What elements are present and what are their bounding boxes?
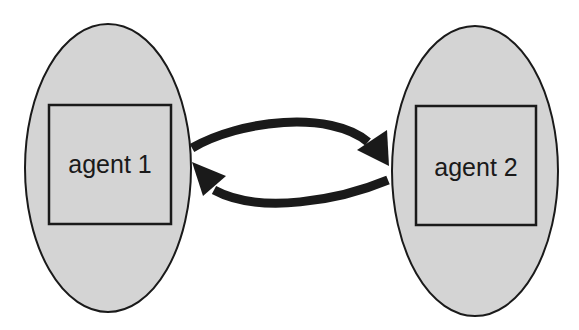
agent-2-node: agent 2 bbox=[392, 26, 558, 316]
arrow-shaft bbox=[214, 180, 388, 203]
agent-1-label: agent 1 bbox=[68, 150, 151, 178]
arrow-agent1-to-agent2 bbox=[192, 122, 389, 166]
arrow-shaft bbox=[192, 122, 368, 148]
arrow-agent2-to-agent1 bbox=[192, 162, 388, 203]
agent-1-node: agent 1 bbox=[25, 24, 191, 312]
diagram-canvas: agent 1 agent 2 bbox=[0, 0, 579, 330]
agent-2-label: agent 2 bbox=[434, 153, 517, 181]
